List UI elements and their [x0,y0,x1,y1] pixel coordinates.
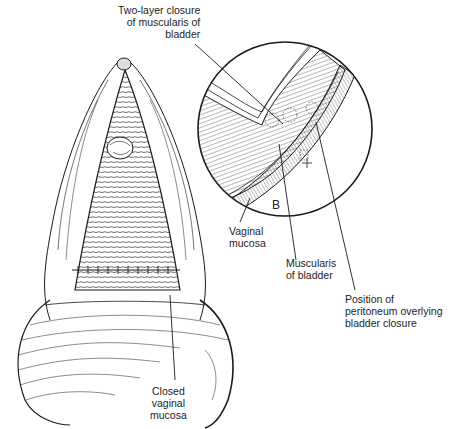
label-line: Two-layer closure [118,4,200,16]
label-line: vaginal [150,397,187,409]
label-vaginal-mucosa: Vaginal mucosa [229,225,266,249]
label-line: Closed [150,385,187,397]
label-peritoneum-position: Position of peritoneum overlying bladder… [345,293,442,329]
label-two-layer-closure: Two-layer closure of muscularis of bladd… [118,4,200,40]
label-closed-vaginal-mucosa: Closed vaginal mucosa [150,385,187,421]
label-line: Vaginal [229,225,266,237]
label-line: bladder [118,28,200,40]
label-line: bladder closure [345,317,442,329]
inset-letter-b: B [272,198,280,212]
label-line: mucosa [150,409,187,421]
label-line: Muscularis [286,257,336,269]
label-muscularis-of-bladder: Muscularis of bladder [286,257,336,281]
surgical-illustration [0,0,461,429]
label-line: Position of [345,293,442,305]
label-line: of bladder [286,269,336,281]
label-line: peritoneum overlying [345,305,442,317]
label-line: mucosa [229,237,266,249]
label-line: of muscularis of [118,16,200,28]
